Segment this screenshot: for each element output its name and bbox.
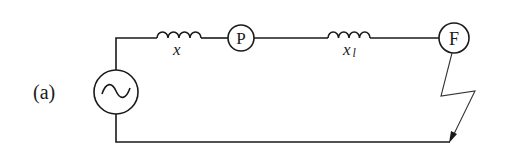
circuit-diagram: (a) x P xl F xyxy=(0,0,505,157)
fault-arrowhead-icon xyxy=(449,131,457,143)
sine-wave-icon xyxy=(102,85,130,98)
node-p-label: P xyxy=(236,29,245,48)
inductor-x-label: x xyxy=(172,40,181,59)
inductor-xl-main: x xyxy=(342,40,351,59)
inductor-x-icon xyxy=(157,32,201,38)
inductor-xl-subscript: l xyxy=(353,46,357,60)
inductor-xl-label: xl xyxy=(342,40,357,60)
wire-left-top xyxy=(116,38,157,70)
fault-zigzag-icon xyxy=(441,53,475,138)
inductor-xl-icon xyxy=(328,32,370,38)
node-f-label: F xyxy=(449,29,459,49)
figure-label: (a) xyxy=(33,81,55,104)
wire-bottom-return xyxy=(116,114,450,142)
circuit-svg: (a) x P xl F xyxy=(0,0,505,157)
